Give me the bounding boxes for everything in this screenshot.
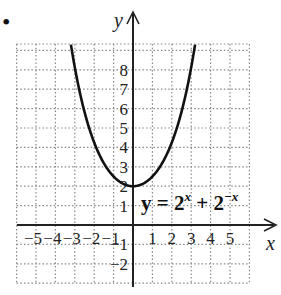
x-tick-label: −4: [43, 229, 62, 248]
y-tick-label: 3: [120, 158, 129, 177]
y-tick-label: 7: [120, 80, 129, 99]
x-tick-label: 3: [187, 229, 196, 248]
x-tick-label: 4: [206, 229, 215, 248]
equation-label: y = 2x + 2−x: [141, 189, 239, 215]
y-tick-label: 8: [120, 61, 129, 80]
x-tick-label: 5: [226, 229, 235, 248]
y-tick-label: −1: [110, 235, 128, 254]
y-tick-label: 1: [120, 197, 129, 216]
x-tick-label: 2: [168, 229, 177, 248]
y-tick-label: 5: [120, 119, 129, 138]
function-graph: −5−4−3−2−112345 87654321−1−2 y x • y = 2…: [0, 0, 281, 295]
x-tick-label: −3: [63, 229, 81, 248]
x-tick-label: −5: [24, 229, 42, 248]
y-tick-label: 6: [120, 100, 129, 119]
y-axis-label: y: [112, 9, 123, 32]
x-tick-label: 1: [148, 229, 157, 248]
y-tick-label: 2: [120, 177, 129, 196]
x-tick-label: −2: [82, 229, 100, 248]
x-axis-label: x: [265, 232, 275, 254]
y-tick-labels: 87654321−1−2: [110, 61, 129, 274]
y-tick-label: −2: [110, 255, 128, 274]
y-tick-label: 4: [120, 138, 129, 157]
bullet-marker: •: [2, 9, 10, 35]
x-tick-labels: −5−4−3−2−112345: [24, 229, 234, 248]
